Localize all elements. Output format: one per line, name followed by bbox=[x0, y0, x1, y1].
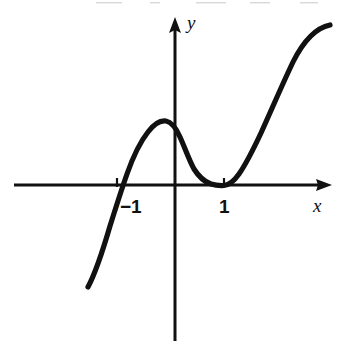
x-tick-label-minus-one: −1 bbox=[120, 196, 142, 217]
x-axis-arrowhead bbox=[316, 179, 332, 191]
curve-cubic bbox=[88, 25, 330, 287]
y-axis-label: y bbox=[185, 12, 196, 33]
scan-artifacts bbox=[96, 2, 318, 3]
x-axis-label: x bbox=[312, 195, 322, 216]
graph-figure: −1 1 y x bbox=[0, 0, 340, 341]
x-tick-label-one: 1 bbox=[219, 196, 230, 217]
